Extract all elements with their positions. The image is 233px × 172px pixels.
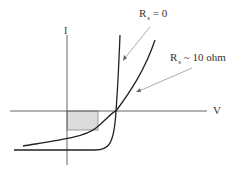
label-rs-10ohm: Rs ~ 10 ohm: [170, 52, 226, 66]
shaded-power-rectangle: [67, 111, 98, 130]
arrow-rs-10ohm: [139, 68, 192, 91]
label-rs-10ohm-main: R: [170, 51, 177, 63]
arrowhead-rs-10ohm: [136, 88, 141, 92]
iv-diagram: I V Rs = 0 Rs ~ 10 ohm: [0, 0, 233, 172]
label-rs-10ohm-rest: ~ 10 ohm: [181, 51, 226, 63]
y-axis-label: I: [64, 26, 67, 36]
label-rs-zero-rest: = 0: [150, 7, 167, 19]
arrow-rs-zero: [124, 27, 150, 59]
diagram-graphics: [0, 0, 233, 172]
x-axis-label: V: [213, 105, 221, 116]
label-rs-zero: Rs = 0: [139, 8, 167, 22]
label-rs-zero-main: R: [139, 7, 146, 19]
